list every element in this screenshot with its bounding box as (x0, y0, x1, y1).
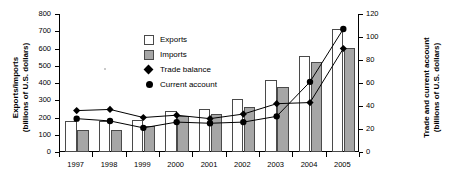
x-axis-tick-mark (59, 152, 60, 157)
data-point-circle (173, 119, 179, 125)
y-axis-left-tick-label: 0 (29, 147, 51, 156)
y-axis-left-title: Exports/imports (billions of U.S. dollar… (11, 18, 30, 158)
x-axis-tick-mark (359, 152, 360, 157)
y-axis-left-tick-label: 700 (29, 26, 51, 35)
y-axis-right-title-line2: (billions of U.S. dollars) (431, 18, 441, 158)
legend-item-label: Imports (160, 50, 187, 59)
diamond-marker-icon (144, 65, 154, 75)
legend-circle-icon (144, 80, 154, 90)
data-point-circle (273, 113, 279, 119)
y-axis-right-tick-label: 120 (366, 9, 390, 18)
legend-item-exports[interactable]: Exports (144, 32, 264, 47)
x-axis-tick-mark (326, 152, 327, 157)
data-point-diamond (340, 45, 347, 52)
y-axis-right-tick-label: 20 (366, 124, 390, 133)
y-axis-right-title-line1: Trade and current account (422, 18, 432, 158)
y-axis-left-tick-label: 500 (29, 61, 51, 70)
legend-item-current-account[interactable]: Current account (144, 77, 264, 92)
data-point-circle (340, 26, 346, 32)
data-point-circle (307, 79, 313, 85)
data-point-circle (73, 115, 79, 121)
plot-area: ExportsImportsTrade balanceCurrent accou… (59, 14, 359, 152)
y-axis-right-tick-label: 40 (366, 101, 390, 110)
y-axis-left-tick-label: 200 (29, 113, 51, 122)
x-axis-tick-mark (259, 152, 260, 157)
y-axis-left-tick-label: 800 (29, 9, 51, 18)
legend-item-imports[interactable]: Imports (144, 47, 264, 62)
y-axis-left-tick-label: 100 (29, 130, 51, 139)
data-point-circle (240, 119, 246, 125)
x-axis-tick-mark (226, 152, 227, 157)
y-axis-left-tick-label: 400 (29, 78, 51, 87)
legend-item-trade-balance[interactable]: Trade balance (144, 62, 264, 77)
x-axis-tick-mark (159, 152, 160, 157)
speck-artifact (104, 68, 106, 70)
data-point-diamond (140, 114, 147, 121)
data-point-circle (107, 118, 113, 124)
legend-swatch-icon (144, 35, 154, 45)
data-point-diamond (273, 100, 280, 107)
legend-item-label: Trade balance (160, 65, 211, 74)
x-axis-tick-mark (192, 152, 193, 157)
legend-swatch-icon (144, 50, 154, 60)
legend-item-label: Exports (160, 35, 187, 44)
chart-legend: ExportsImportsTrade balanceCurrent accou… (144, 32, 264, 92)
data-point-diamond (306, 99, 313, 106)
data-point-diamond (240, 110, 247, 117)
y-axis-right-title: Trade and current account (billions of U… (422, 18, 441, 158)
legend-item-label: Current account (160, 80, 217, 89)
legend-diamond-icon (144, 65, 154, 75)
y-axis-left-title-line1: Exports/imports (11, 18, 21, 158)
y-axis-left-tick-label: 600 (29, 44, 51, 53)
data-point-diamond (73, 107, 80, 114)
data-point-circle (140, 125, 146, 131)
x-axis-tick-mark (126, 152, 127, 157)
data-point-diamond (173, 112, 180, 119)
x-axis-tick-label: 2005 (322, 160, 362, 169)
x-axis-tick-mark (292, 152, 293, 157)
y-axis-right-tick-label: 60 (366, 78, 390, 87)
x-axis-tick-mark (92, 152, 93, 157)
y-axis-left-tick-label: 300 (29, 95, 51, 104)
data-point-diamond (106, 106, 113, 113)
y-axis-right-tick-label: 100 (366, 32, 390, 41)
y-axis-right-tick-label: 80 (366, 55, 390, 64)
chart-figure: Exports/imports (billions of U.S. dollar… (0, 0, 451, 181)
circle-marker-icon (146, 81, 153, 88)
y-axis-right-tick-label: 0 (366, 147, 390, 156)
data-point-circle (207, 120, 213, 126)
